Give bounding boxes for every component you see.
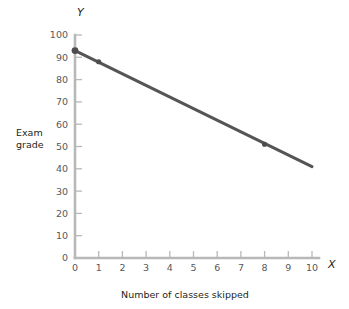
y-tick-label: 100: [50, 29, 68, 40]
y-axis-letter: Y: [77, 6, 85, 19]
y-axis-title-line2: grade: [16, 139, 44, 150]
y-tick-label: 90: [56, 52, 68, 63]
x-tick-label: 0: [72, 262, 78, 273]
x-tick-label: 5: [190, 262, 196, 273]
y-tick-label: 20: [56, 208, 68, 219]
data-point: [72, 47, 79, 54]
x-tick-label: 2: [119, 262, 125, 273]
x-tick-label: 9: [285, 262, 291, 273]
line-chart: 012345678910 0102030405060708090100 Y X …: [0, 0, 349, 309]
x-tick-label: 10: [306, 262, 318, 273]
chart-container: 012345678910 0102030405060708090100 Y X …: [0, 0, 349, 309]
y-tick-label: 0: [62, 252, 68, 263]
trend-line: [75, 51, 312, 167]
x-axis-letter: X: [327, 258, 336, 271]
data-point: [262, 142, 267, 147]
data-series: [75, 51, 312, 167]
x-tick-label: 4: [167, 262, 173, 273]
y-tick-label: 60: [56, 119, 68, 130]
x-tick-label: 8: [262, 262, 268, 273]
y-tick-label: 40: [56, 163, 68, 174]
y-tick-label: 30: [56, 186, 68, 197]
x-tick-label: 6: [214, 262, 220, 273]
x-tick-label: 7: [238, 262, 244, 273]
y-tick-labels: 0102030405060708090100: [50, 29, 68, 263]
y-tick-label: 10: [56, 230, 68, 241]
y-tick-label: 50: [56, 141, 68, 152]
data-point: [96, 59, 101, 64]
x-axis-title: Number of classes skipped: [121, 289, 249, 300]
x-tick-labels: 012345678910: [72, 262, 318, 273]
x-tick-label: 3: [143, 262, 149, 273]
y-tick-label: 70: [56, 96, 68, 107]
x-tick-label: 1: [96, 262, 102, 273]
y-tick-label: 80: [56, 74, 68, 85]
y-axis-title-line1: Exam: [16, 127, 43, 138]
